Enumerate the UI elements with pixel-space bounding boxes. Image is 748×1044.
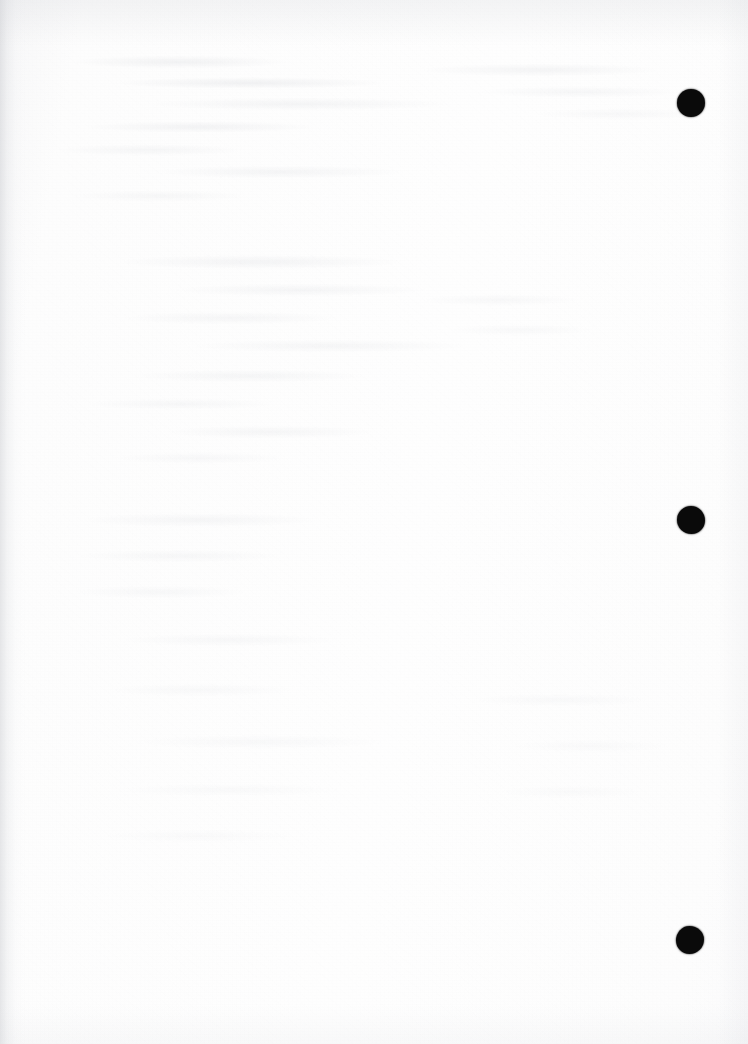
punch-mark-middle [677, 506, 705, 534]
punch-mark-top [677, 89, 705, 117]
paper-surface [0, 0, 748, 1044]
scanned-page [0, 0, 748, 1044]
